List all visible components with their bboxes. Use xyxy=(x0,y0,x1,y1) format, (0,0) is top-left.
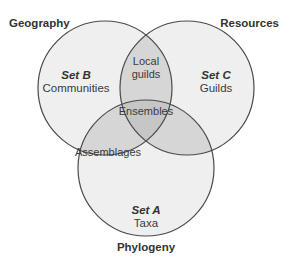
set-c-label: Guilds xyxy=(200,82,233,94)
set-b-label: Communities xyxy=(42,82,109,94)
set-c-name: Set C xyxy=(201,69,231,81)
set-a-label: Taxa xyxy=(134,217,159,229)
intersection-b-c-line1: Local xyxy=(133,55,159,67)
set-a-name: Set A xyxy=(132,204,161,216)
intersection-a-b: Assemblages xyxy=(75,146,142,158)
set-b-name: Set B xyxy=(61,69,90,81)
label-geography: Geography xyxy=(9,17,70,29)
intersection-b-c-line2: guilds xyxy=(132,68,161,80)
intersection-a-b-c: Ensembles xyxy=(119,105,174,117)
label-phylogeny: Phylogeny xyxy=(117,241,176,253)
venn-diagram: Geography Resources Phylogeny Set B Comm… xyxy=(0,0,286,262)
label-resources: Resources xyxy=(220,17,279,29)
